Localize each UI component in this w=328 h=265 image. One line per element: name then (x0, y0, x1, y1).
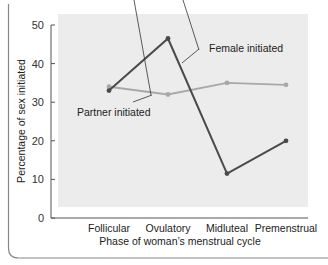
y-tick-label: 30 (32, 96, 44, 108)
x-category-labels: FollicularOvulatoryMidlutealPremenstrual (88, 222, 317, 234)
line-chart: 01020304050 FollicularOvulatoryMidluteal… (0, 0, 328, 265)
data-point (284, 82, 289, 87)
y-tick-label: 20 (32, 135, 44, 147)
y-tick-label: 50 (32, 19, 44, 31)
y-tick-label: 40 (32, 58, 44, 70)
data-point (225, 81, 230, 86)
female-initiated-label: Female initiated (209, 42, 283, 54)
y-tick-label: 0 (38, 212, 44, 224)
x-category-label: Midluteal (206, 222, 248, 234)
x-axis-title: Phase of woman’s menstrual cycle (99, 235, 261, 247)
y-ticks: 01020304050 (32, 19, 55, 224)
x-category-label: Ovulatory (146, 222, 192, 234)
data-point (166, 36, 171, 41)
x-category-label: Premenstrual (255, 222, 317, 234)
data-point (284, 138, 289, 143)
partner-initiated-label: Partner initiated (77, 106, 151, 118)
data-point (166, 92, 171, 97)
y-axis-title: Percentage of sex initiated (15, 59, 27, 183)
x-category-label: Follicular (88, 222, 131, 234)
data-point (107, 88, 112, 93)
data-point (225, 171, 230, 176)
y-tick-label: 10 (32, 173, 44, 185)
